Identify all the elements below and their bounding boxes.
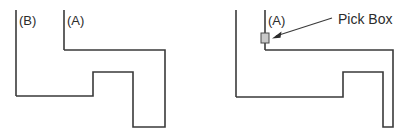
figure-left-two-edges: (B) (A) bbox=[0, 0, 210, 137]
drawing-canvas: (B) (A) (A) Pick Box bbox=[0, 0, 419, 137]
part-outline-left bbox=[16, 50, 165, 127]
label-b: (B) bbox=[19, 13, 36, 28]
pick-box-marker[interactable] bbox=[261, 33, 269, 43]
pick-box-callout-label: Pick Box bbox=[338, 11, 392, 27]
label-a-right: (A) bbox=[268, 13, 285, 28]
pick-box-arrowhead bbox=[272, 32, 282, 39]
label-a: (A) bbox=[67, 13, 84, 28]
figure-right-pick-box: (A) Pick Box bbox=[210, 0, 419, 137]
part-outline-right bbox=[236, 50, 393, 127]
